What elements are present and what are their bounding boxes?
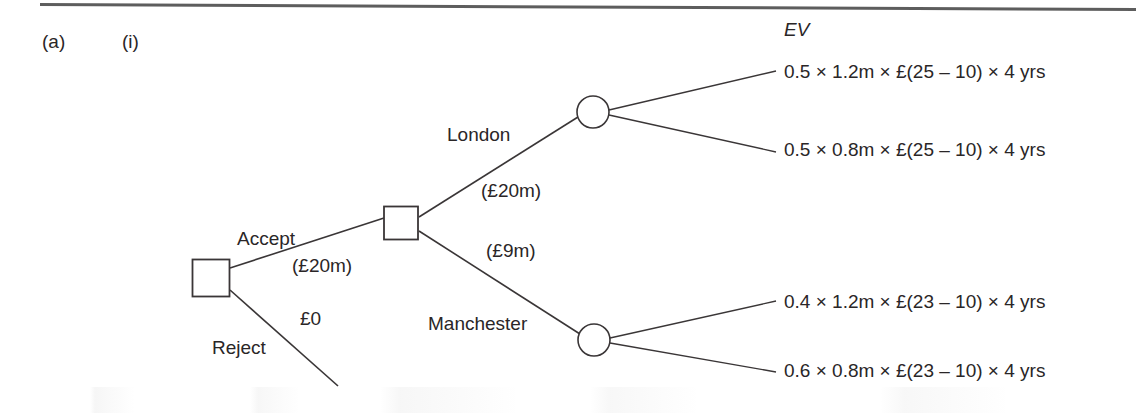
branch-manchester-low-line [610, 343, 776, 372]
outcome-london-low: 0.5 × 0.8m × £(25 – 10) × 4 yrs [784, 139, 1045, 161]
decision-tree-page: (a) (i) EV Accept (£20m) Reject £0 Londo… [0, 0, 1136, 413]
branch-value-manchester: (£9m) [486, 240, 536, 262]
branch-manchester-high-line [610, 301, 776, 338]
chance-node-london [577, 96, 609, 128]
branch-value-london: (£20m) [481, 180, 541, 202]
decision-node-location [384, 207, 418, 240]
branch-value-accept: (£20m) [292, 255, 352, 277]
branch-label-reject: Reject [212, 337, 266, 359]
branch-value-reject: £0 [300, 308, 321, 330]
branch-label-manchester: Manchester [428, 313, 527, 335]
decision-node-root [193, 260, 230, 297]
ev-column-header: EV [784, 19, 809, 41]
branch-london-low-line [609, 115, 776, 152]
branch-label-accept: Accept [237, 228, 295, 250]
outcome-manchester-high: 0.4 × 1.2m × £(23 – 10) × 4 yrs [784, 291, 1045, 313]
branch-label-london: London [447, 124, 510, 146]
outcome-london-high: 0.5 × 1.2m × £(25 – 10) × 4 yrs [784, 61, 1045, 83]
subpart-label: (i) [122, 31, 139, 53]
part-label: (a) [42, 31, 65, 53]
page-top-rule [40, 5, 1136, 10]
branch-london-high-line [609, 71, 776, 110]
chance-node-manchester [578, 324, 610, 356]
outcome-manchester-low: 0.6 × 0.8m × £(23 – 10) × 4 yrs [784, 360, 1045, 382]
